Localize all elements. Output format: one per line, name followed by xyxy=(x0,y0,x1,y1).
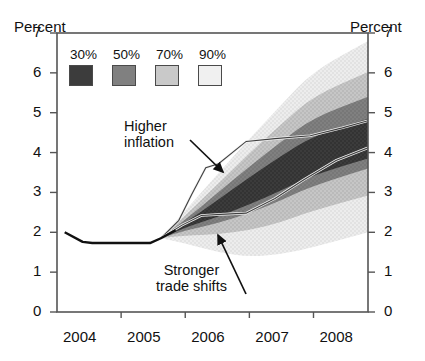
annotation-higher-inflation: Higher inflation xyxy=(124,118,174,150)
fan-chart: Percent Percent xyxy=(0,0,425,361)
legend-label-0: 30% xyxy=(70,47,97,62)
x-tick-label: 2006 xyxy=(191,328,224,345)
legend-swatch-50 xyxy=(112,65,136,86)
y-tick-label: 6 xyxy=(384,63,392,80)
annotation-higher-inflation-line2: inflation xyxy=(124,134,174,150)
y-tick-label: 0 xyxy=(384,302,392,319)
x-tick-label: 2005 xyxy=(127,328,160,345)
y-tick-label: 2 xyxy=(384,222,392,239)
line-history xyxy=(65,230,176,243)
y-tick-label: 4 xyxy=(33,143,41,160)
y-tick-label: 3 xyxy=(33,182,41,199)
y-tick-label: 5 xyxy=(33,103,41,120)
y-tick-label: 1 xyxy=(384,262,392,279)
legend-label-1: 50% xyxy=(113,47,140,62)
y-tick-label: 0 xyxy=(33,302,41,319)
annotation-stronger-trade-shifts-line2: trade shifts xyxy=(156,278,227,294)
legend-label-3: 90% xyxy=(199,47,226,62)
y-tick-label: 4 xyxy=(384,143,392,160)
legend-label-2: 70% xyxy=(156,47,183,62)
annotation-stronger-trade-shifts: Stronger trade shifts xyxy=(156,262,227,294)
y-tick-label: 2 xyxy=(33,222,41,239)
y-tick-label: 3 xyxy=(384,182,392,199)
x-tick-label: 2007 xyxy=(255,328,288,345)
annotation-stronger-trade-shifts-line1: Stronger xyxy=(156,262,227,278)
legend-swatch-30 xyxy=(69,65,93,86)
y-tick-label: 6 xyxy=(33,63,41,80)
fan-bands-group xyxy=(161,41,368,256)
legend-swatch-90 xyxy=(198,65,222,86)
x-tick-label: 2008 xyxy=(319,328,352,345)
y-tick-label: 7 xyxy=(33,23,41,40)
y-tick-label: 1 xyxy=(33,262,41,279)
legend-swatch-70 xyxy=(155,65,179,86)
x-tick-label: 2004 xyxy=(63,328,96,345)
y-tick-label: 7 xyxy=(384,23,392,40)
y-tick-label: 5 xyxy=(384,103,392,120)
annotation-higher-inflation-line1: Higher xyxy=(124,118,174,134)
